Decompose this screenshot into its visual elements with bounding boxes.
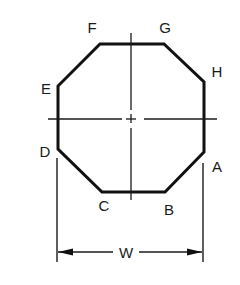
vertex-label-d: D (40, 143, 51, 160)
width-dimension-label: W (119, 244, 134, 261)
vertex-label-e: E (41, 80, 51, 97)
vertex-label-c: C (99, 197, 110, 214)
vertex-label-h: H (212, 63, 223, 80)
vertex-label-f: F (87, 19, 96, 36)
right-arrowhead-icon (187, 249, 202, 256)
vertex-label-g: G (159, 19, 171, 36)
vertex-label-a: A (212, 158, 222, 175)
vertex-label-b: B (164, 201, 174, 218)
octagon-diagram: A B C D E F G H W (0, 0, 240, 285)
left-arrowhead-icon (58, 249, 73, 256)
